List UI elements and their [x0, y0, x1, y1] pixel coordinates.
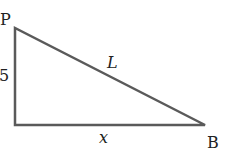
side-label-vertical: 5: [0, 66, 9, 85]
triangle-svg: P 5 L x B: [0, 0, 226, 158]
side-label-hypotenuse: L: [106, 53, 118, 72]
right-triangle-shape: [15, 28, 205, 125]
vertex-label-b: B: [207, 133, 219, 152]
side-label-base: x: [99, 128, 108, 147]
triangle-diagram: P 5 L x B: [0, 0, 226, 158]
vertex-label-p: P: [0, 10, 11, 29]
